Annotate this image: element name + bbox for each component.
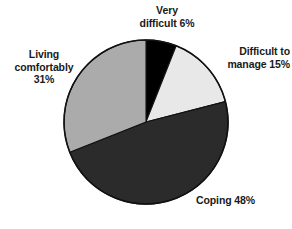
pie-chart-figure: Very difficult 6% Difficult to manage 15… — [0, 0, 292, 229]
pie-label-difficult-to-manage: Difficult to manage 15% — [204, 45, 290, 70]
pie-label-living-comfortably: Living comfortably 31% — [2, 48, 86, 86]
pie-label-very-difficult: Very difficult 6% — [128, 4, 206, 29]
pie-label-coping: Coping 48% — [196, 194, 282, 207]
